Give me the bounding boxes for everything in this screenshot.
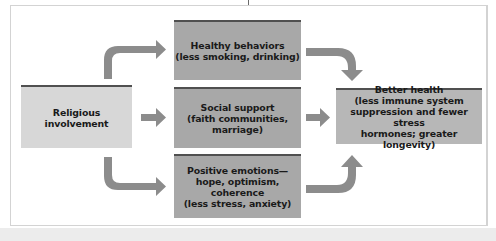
node-better-health: Better health (less immune system suppre…	[336, 88, 482, 144]
node-label: Healthy behaviors (less smoking, drinkin…	[175, 40, 299, 62]
arrow-source-to-social-support-icon	[141, 108, 166, 127]
node-social-support: Social support (faith communities, marri…	[174, 87, 301, 148]
node-positive-emotions: Positive emotions— hope, optimism, coher…	[174, 154, 301, 218]
arrow-source-to-healthy-behaviors-icon	[104, 40, 166, 79]
node-label: Better health (less immune system suppre…	[336, 84, 482, 150]
arrow-social-support-to-better-health-icon	[306, 108, 330, 127]
arrow-source-to-positive-emotions-icon	[104, 157, 166, 196]
node-label: Religious involvement	[21, 107, 132, 129]
arrow-positive-emotions-to-better-health-icon	[306, 155, 363, 193]
node-healthy-behaviors: Healthy behaviors (less smoking, drinkin…	[174, 20, 301, 80]
node-label: Positive emotions— hope, optimism, coher…	[184, 165, 292, 209]
node-label: Social support (faith communities, marri…	[187, 102, 288, 135]
arrow-healthy-behaviors-to-better-health-icon	[306, 48, 363, 81]
node-religious-involvement: Religious involvement	[21, 85, 132, 148]
